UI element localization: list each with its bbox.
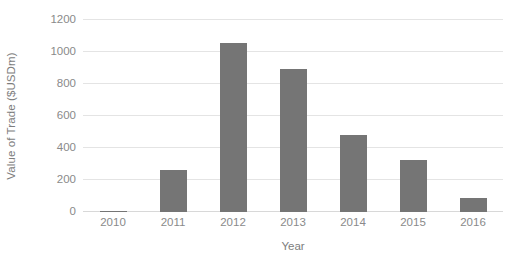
bar-2013 — [280, 69, 307, 212]
x-axis-title: Year — [83, 240, 503, 252]
y-tick-label: 1000 — [32, 46, 76, 58]
y-tick-label: 1200 — [32, 14, 76, 26]
y-tick-label: 800 — [32, 78, 76, 90]
x-tick-label-2013: 2013 — [265, 216, 321, 230]
y-tick-label: 400 — [32, 142, 76, 154]
bar-2012 — [220, 43, 247, 212]
y-axis-title-label: Value of Trade ($USDm) — [5, 52, 17, 179]
y-tick-label: 600 — [32, 110, 76, 122]
y-tick-label: 0 — [32, 206, 76, 218]
x-tick-label-2011: 2011 — [145, 216, 201, 230]
bar-2015 — [400, 160, 427, 212]
y-tick-label: 200 — [32, 174, 76, 186]
bar-series — [83, 20, 503, 212]
x-tick-label-2012: 2012 — [205, 216, 261, 230]
plot-area — [83, 20, 503, 212]
bar-2010 — [100, 211, 127, 213]
bar-2016 — [460, 198, 487, 212]
bar-chart-figure: Value of Trade ($USDm) 02004006008001000… — [0, 0, 514, 277]
x-tick-label-2014: 2014 — [325, 216, 381, 230]
bar-2014 — [340, 135, 367, 212]
y-axis-tick-labels: 020040060080010001200 — [24, 20, 76, 212]
x-tick-label-2010: 2010 — [85, 216, 141, 230]
x-tick-label-2015: 2015 — [385, 216, 441, 230]
y-axis-title: Value of Trade ($USDm) — [0, 0, 22, 232]
x-axis-tick-labels: 2010201120122013201420152016 — [83, 216, 503, 234]
x-tick-label-2016: 2016 — [445, 216, 501, 230]
bar-2011 — [160, 170, 187, 212]
